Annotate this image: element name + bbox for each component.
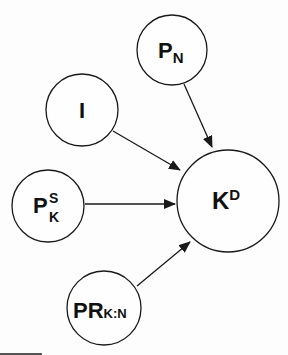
node-psk-circle [12,170,84,242]
node-kd: KD [177,150,279,252]
node-psk: P S K [12,170,84,242]
node-prkn: PRK:N [67,271,141,345]
node-psk-label-sup: S [49,190,58,206]
diagram-canvas: PN I P S K PRK:N KD [0,0,288,355]
node-i: I [46,74,118,146]
edge-i-to-kd [113,131,180,170]
node-psk-label-sub: K [49,209,59,225]
node-pn: PN [137,15,207,85]
edge-pn-to-kd [184,84,212,147]
node-psk-label-main: P [33,193,48,218]
edge-prkn-to-kd [137,242,190,286]
node-i-label: I [79,98,85,123]
